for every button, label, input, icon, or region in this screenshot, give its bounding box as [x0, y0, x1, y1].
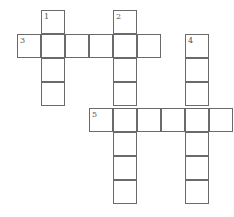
crossword-cell[interactable] — [41, 82, 65, 106]
clue-number: 5 — [92, 110, 97, 119]
crossword-cell[interactable] — [185, 132, 209, 156]
crossword-cell-2[interactable]: 2 — [113, 10, 137, 34]
crossword-cell[interactable] — [41, 34, 65, 58]
crossword-cell[interactable] — [113, 180, 137, 204]
crossword-cell[interactable] — [161, 108, 185, 132]
crossword-cell[interactable] — [185, 82, 209, 106]
crossword-cell[interactable] — [185, 156, 209, 180]
crossword-cell-5[interactable]: 5 — [89, 108, 113, 132]
crossword-cell[interactable] — [113, 156, 137, 180]
crossword-cell[interactable] — [137, 34, 161, 58]
clue-number: 3 — [20, 36, 25, 45]
crossword-cell[interactable] — [41, 58, 65, 82]
clue-number: 2 — [116, 12, 121, 21]
crossword-cell[interactable] — [137, 108, 161, 132]
crossword-cell[interactable] — [113, 132, 137, 156]
crossword-cell[interactable] — [113, 34, 137, 58]
crossword-grid: 12345 — [0, 0, 234, 217]
crossword-cell-3[interactable]: 3 — [17, 34, 41, 58]
crossword-cell[interactable] — [185, 180, 209, 204]
crossword-cell[interactable] — [113, 58, 137, 82]
crossword-cell-4[interactable]: 4 — [185, 34, 209, 58]
clue-number: 1 — [44, 12, 49, 21]
crossword-cell[interactable] — [65, 34, 89, 58]
clue-number: 4 — [188, 36, 193, 45]
crossword-cell[interactable] — [113, 108, 137, 132]
crossword-cell[interactable] — [113, 82, 137, 106]
crossword-cell-1[interactable]: 1 — [41, 10, 65, 34]
crossword-cell[interactable] — [185, 58, 209, 82]
crossword-cell[interactable] — [185, 108, 209, 132]
crossword-cell[interactable] — [209, 108, 233, 132]
crossword-cell[interactable] — [89, 34, 113, 58]
